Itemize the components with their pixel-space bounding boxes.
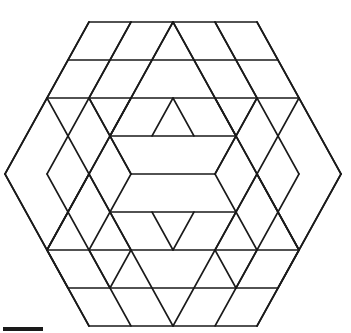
lattice-line	[152, 212, 173, 250]
lattice-lines	[5, 22, 341, 326]
lattice-line	[236, 212, 257, 250]
lattice-line	[5, 98, 47, 174]
lattice-line	[173, 98, 194, 136]
scale-bar	[3, 327, 43, 331]
lattice-line	[173, 212, 194, 250]
lattice-line	[278, 250, 299, 288]
lattice-line	[299, 98, 341, 174]
lattice-line	[5, 174, 47, 250]
lattice-line	[110, 174, 131, 212]
hexagon-lattice-diagram	[0, 0, 351, 333]
lattice-line	[236, 250, 257, 288]
lattice-line	[299, 174, 341, 250]
lattice-line	[89, 250, 110, 288]
lattice-line	[152, 98, 173, 136]
lattice-line	[89, 212, 110, 250]
lattice-line	[89, 98, 110, 136]
lattice-line	[236, 98, 257, 136]
lattice-line	[110, 136, 131, 174]
lattice-line	[47, 250, 68, 288]
lattice-line	[215, 136, 236, 174]
lattice-line	[215, 174, 236, 212]
lattice-line	[110, 250, 131, 288]
lattice-line	[215, 250, 236, 288]
